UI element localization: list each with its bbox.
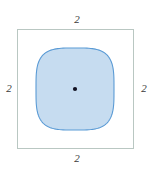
center-point — [73, 87, 77, 91]
dimension-label-right: 2 — [138, 83, 150, 94]
dimension-label-bottom: 2 — [0, 153, 154, 164]
geometry-figure: 2 2 2 2 — [0, 0, 154, 176]
dimension-label-top: 2 — [0, 14, 154, 25]
dimension-label-left: 2 — [3, 83, 15, 94]
figure-canvas — [0, 0, 154, 176]
